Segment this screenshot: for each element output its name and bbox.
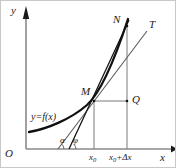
x-tick-delta-rest: +Δx [116,152,131,162]
angle-label-phi: φ [73,136,78,145]
point-m-marker [93,100,96,103]
figure-canvas: y x O M N Q T y=f(x) α φ x0 x0+Δx [0,0,176,168]
point-label-t: T [149,19,155,30]
x-axis-arrow [171,146,176,153]
point-n-marker [126,25,129,28]
tangent-line-mt [58,31,147,149]
point-label-n: N [113,14,120,25]
x-tick-x0-subscript: 0 [93,156,96,163]
x-axis-label: x [160,152,165,163]
x-tick-label-x0: x0 [89,153,96,163]
curve-equation-label: y=f(x) [31,112,56,122]
origin-label: O [5,148,13,159]
point-q-marker [126,100,129,103]
point-label-q: Q [132,94,140,105]
x-tick-label-x0-delta: x0+Δx [109,153,132,163]
point-label-m: M [81,86,90,97]
y-axis-arrow [23,6,29,19]
y-axis-label: y [11,5,16,16]
angle-label-alpha: α [60,136,65,145]
